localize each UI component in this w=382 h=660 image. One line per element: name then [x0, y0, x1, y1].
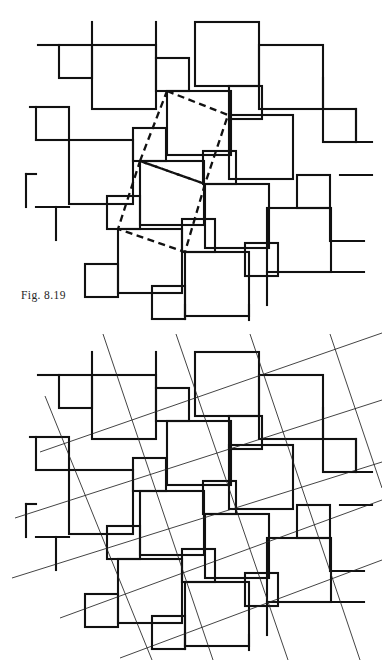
thin-line-overlay: [12, 333, 382, 660]
tile-square-small-22: [85, 264, 118, 297]
tile-square-small-11: [59, 45, 92, 78]
tile-square-large-1: [195, 22, 259, 86]
thin-lattice-line-0: [103, 334, 213, 660]
figure-8-20: Fig. 8.20: [0, 330, 382, 660]
tile-square-small-12: [156, 58, 189, 91]
thin-lattice-line-3: [45, 396, 152, 660]
tile-square-large-2: [259, 45, 323, 109]
figure-8-19: Fig. 8.19: [0, 0, 382, 330]
tile-square-large-10: [185, 252, 249, 316]
tile-square-small-19: [107, 196, 140, 229]
tile-square-small-18: [297, 175, 330, 208]
tile-square-small-23: [152, 286, 185, 319]
tile-square-large-8: [267, 538, 331, 602]
tile-square-large-3: [69, 140, 133, 204]
tile-square-large-6: [140, 491, 204, 555]
tile-square-large-8: [267, 208, 331, 272]
tile-square-small-16: [323, 109, 356, 142]
tile-square-large-5: [229, 115, 293, 179]
tile-square-large-10: [185, 582, 249, 646]
dashed-lattice-overlay: [118, 91, 228, 252]
figure-caption-8-19: Fig. 8.19: [21, 289, 66, 301]
tile-square-large-6: [140, 161, 204, 225]
tile-square-small-15: [133, 128, 166, 161]
tile-square-small-14: [36, 107, 69, 140]
tile-square-large-0: [92, 375, 156, 439]
tiling-edges-819: [26, 22, 372, 320]
dashed-quad-1: [118, 161, 205, 252]
tile-square-large-9: [118, 559, 182, 623]
figure-8-19-drawing: [0, 0, 382, 330]
tile-square-small-11: [59, 375, 92, 408]
tile-square-large-5: [229, 445, 293, 509]
tile-square-large-4: [167, 91, 231, 155]
tile-square-large-0: [92, 45, 156, 109]
dashed-quad-0: [140, 91, 228, 184]
tile-square-large-4: [167, 421, 231, 485]
tile-square-large-9: [118, 229, 182, 293]
tile-square-small-19: [107, 526, 140, 559]
tile-square-small-12: [156, 388, 189, 421]
figure-8-20-drawing: [0, 330, 382, 660]
tile-square-small-16: [323, 439, 356, 472]
thin-lattice-line-6: [15, 400, 382, 518]
tile-square-large-1: [195, 352, 259, 416]
